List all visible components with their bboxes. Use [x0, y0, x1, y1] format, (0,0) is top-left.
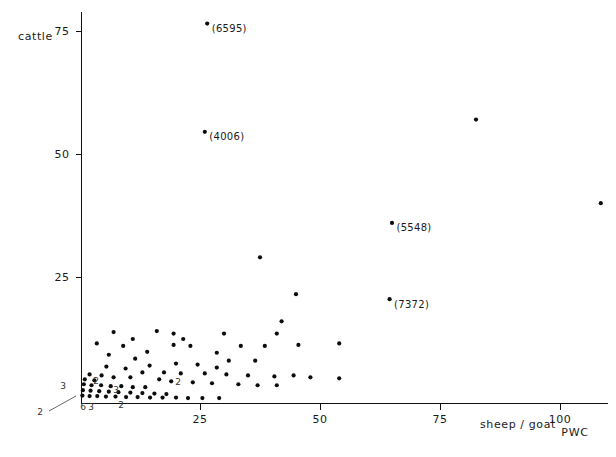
data-point [280, 319, 284, 323]
data-point [131, 385, 135, 389]
data-point [121, 344, 125, 348]
data-point [97, 389, 101, 393]
y-axis-title: cattle [18, 30, 53, 43]
data-point [88, 389, 92, 393]
data-point [205, 22, 209, 26]
data-point [107, 353, 111, 357]
data-point [337, 376, 341, 380]
data-point [131, 337, 135, 341]
data-point [215, 365, 219, 369]
data-point [155, 329, 159, 333]
data-point [81, 388, 85, 392]
data-point [275, 383, 279, 387]
data-point [128, 391, 132, 395]
data-point [253, 359, 257, 363]
data-point [215, 351, 219, 355]
data-point [296, 343, 300, 347]
data-point [104, 394, 108, 398]
overlap-leader-line [49, 396, 76, 411]
data-point [119, 384, 123, 388]
y-tick-label: 75 [55, 25, 70, 38]
data-point [140, 370, 144, 374]
axes-group [82, 12, 609, 404]
overlap-count-label: 2 [175, 377, 181, 387]
data-point [203, 130, 207, 134]
data-point [164, 392, 168, 396]
data-point [224, 372, 228, 376]
x-tick-label: 25 [193, 413, 208, 426]
data-point [124, 395, 128, 399]
data-point [136, 395, 140, 399]
data-point [152, 392, 156, 396]
data-point-label: (7372) [394, 299, 429, 310]
overlap-count-label: 2 [93, 376, 99, 386]
overlap-count-label: 2 [118, 400, 124, 410]
scatter-plot-figure: 255075 255075100 cattle sheep / goat PWC… [0, 0, 616, 457]
data-point [236, 382, 240, 386]
data-point [100, 373, 104, 377]
overlap-count-label: 3 [113, 385, 119, 395]
data-point [95, 394, 99, 398]
data-point [292, 373, 296, 377]
data-point [99, 383, 103, 387]
data-point [217, 396, 221, 400]
y-axis-ticks: 255075 [55, 25, 82, 284]
data-point [112, 375, 116, 379]
data-point [258, 255, 262, 259]
plot-canvas: 255075 255075100 cattle sheep / goat PWC… [0, 0, 616, 457]
data-point [113, 394, 117, 398]
data-point [272, 374, 276, 378]
data-point [599, 201, 603, 205]
x-tick-label: 75 [433, 413, 448, 426]
data-point [210, 381, 214, 385]
overlap-count-labels: 32363222 [37, 376, 181, 417]
data-point [128, 375, 132, 379]
data-point [95, 341, 99, 345]
leader-lines-group [49, 396, 76, 411]
data-point [179, 371, 183, 375]
x-tick-label: 50 [313, 413, 328, 426]
data-point [172, 343, 176, 347]
x-axis-title: sheep / goat [480, 418, 556, 431]
data-point [186, 396, 190, 400]
data-point [308, 375, 312, 379]
data-point [222, 331, 226, 335]
data-point [82, 382, 86, 386]
data-point [88, 394, 92, 398]
overlap-count-label: 6 [80, 402, 86, 412]
data-point [227, 359, 231, 363]
data-point [83, 377, 87, 381]
data-point [246, 373, 250, 377]
data-point [239, 344, 243, 348]
data-point [388, 297, 392, 301]
data-point [196, 362, 200, 366]
data-point [188, 344, 192, 348]
data-point [88, 372, 92, 376]
overlap-count-label: 2 [37, 407, 43, 417]
data-point [174, 395, 178, 399]
data-point [256, 383, 260, 387]
y-tick-label: 50 [55, 148, 70, 161]
data-point [203, 371, 207, 375]
data-point [148, 363, 152, 367]
data-point [200, 396, 204, 400]
data-point [80, 393, 84, 397]
data-point [390, 221, 394, 225]
data-point-label: (5548) [397, 222, 432, 233]
data-point [140, 391, 144, 395]
data-point [174, 361, 178, 365]
overlap-count-label: 3 [60, 381, 66, 391]
data-point [275, 331, 279, 335]
data-point [162, 370, 166, 374]
data-point [337, 341, 341, 345]
data-point [145, 350, 149, 354]
data-point [181, 337, 185, 341]
data-point [107, 390, 111, 394]
data-point [169, 379, 173, 383]
y-tick-label: 25 [55, 271, 70, 284]
data-point [263, 344, 267, 348]
corner-tag-pwc: PWC [561, 426, 589, 439]
data-points-group [80, 22, 603, 401]
point-labels-group: (6595)(4006)(5548)(7372) [209, 23, 431, 310]
data-point [160, 395, 164, 399]
